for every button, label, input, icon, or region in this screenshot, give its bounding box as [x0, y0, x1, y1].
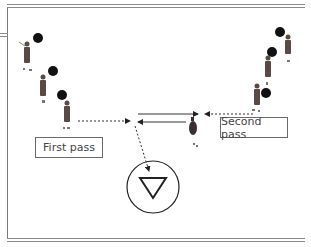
player-icon: [63, 101, 70, 130]
player-icon: [265, 56, 271, 86]
ball-icon: [261, 88, 271, 98]
player-icon: [19, 42, 32, 72]
ball-icon: [275, 27, 285, 37]
ball-icon: [267, 47, 277, 57]
center-player-icon: [189, 117, 198, 147]
ball-icon: [57, 90, 67, 100]
player-icon: [40, 75, 46, 104]
ball-icon: [48, 66, 58, 76]
ball-icon: [33, 33, 43, 43]
second-pass-label: Second pass: [220, 117, 288, 138]
first-pass-label: First pass: [35, 137, 103, 158]
player-icon: [252, 84, 260, 113]
goal-icon: [127, 161, 179, 213]
player-icon: [285, 35, 291, 63]
shot-arrow: [135, 126, 149, 171]
